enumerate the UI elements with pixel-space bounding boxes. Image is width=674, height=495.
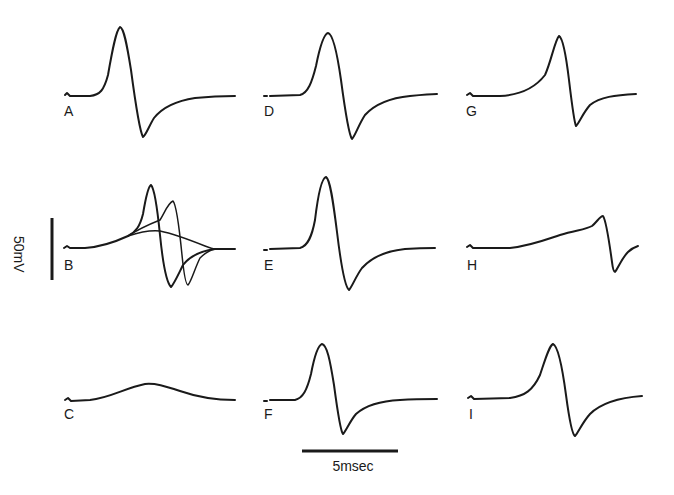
trace-a — [65, 27, 235, 137]
panel-label-a: A — [64, 104, 73, 118]
panel-label-b: B — [64, 258, 73, 272]
voltage-scale-label: 50mV — [11, 236, 27, 273]
trace-c — [65, 384, 235, 401]
trace-h — [467, 216, 638, 272]
trace-f — [264, 344, 437, 434]
panel-label-e: E — [264, 258, 273, 272]
trace-e — [264, 177, 435, 290]
panel-label-c: C — [64, 407, 74, 421]
time-scale-label: 5msec — [308, 458, 398, 474]
panel-label-h: H — [467, 258, 477, 272]
panel-label-i: I — [469, 407, 473, 421]
trace-d — [264, 33, 437, 139]
panel-label-g: G — [466, 104, 477, 118]
panel-label-f: F — [264, 407, 273, 421]
action-potential-figure — [0, 0, 674, 495]
trace-b — [64, 185, 235, 287]
trace-i — [468, 344, 642, 436]
trace-g — [467, 36, 636, 126]
panel-label-d: D — [264, 104, 274, 118]
